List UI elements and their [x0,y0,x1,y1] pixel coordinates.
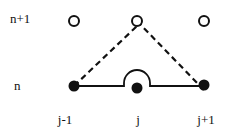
row-label-n: n [14,79,21,92]
stencil-nodes [69,16,210,94]
column-label-j: j [136,113,140,126]
open-node-node-j-n-plus-1 [132,16,142,26]
column-label-j-plus-1: j+1 [197,113,214,126]
column-label-j-minus-1: j-1 [58,113,72,126]
stencil-edges [74,21,204,90]
stencil-diagram: n+1 n j-1 j j+1 [0,0,226,137]
filled-node-node-j-plus-1-n [199,80,210,91]
dashed-right-line [137,21,204,90]
open-node-node-j-minus-1-n-plus-1 [69,16,79,26]
filled-node-node-j-n [132,83,143,94]
stencil-graphic [0,0,226,137]
row-label-n-plus-1: n+1 [10,12,30,25]
dashed-left-line [74,26,137,86]
filled-node-node-j-minus-1-n [69,81,80,92]
open-node-node-j-plus-1-n-plus-1 [199,16,209,26]
